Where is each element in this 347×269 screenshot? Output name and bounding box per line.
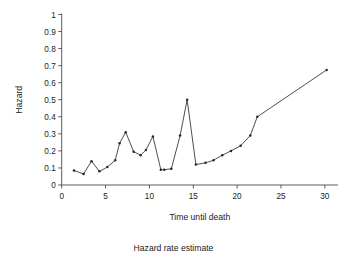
data-point-marker <box>325 69 328 72</box>
y-tick-label: 0 <box>51 181 56 190</box>
data-point-marker <box>73 169 76 172</box>
y-tick-label: 0.6 <box>44 79 56 88</box>
y-tick-label: 0.5 <box>44 96 56 105</box>
y-tick-label: 1 <box>51 11 56 20</box>
data-point-marker <box>98 170 101 173</box>
hazard-data-line <box>74 70 327 174</box>
y-tick-label: 0.9 <box>44 28 56 37</box>
data-point-marker <box>204 162 207 165</box>
data-point-marker <box>249 134 252 137</box>
hazard-rate-chart: 00.10.20.30.40.50.60.70.80.9105101520253… <box>0 0 347 269</box>
data-point-marker <box>239 145 242 148</box>
data-point-marker <box>124 131 127 134</box>
y-tick-label: 0.7 <box>44 62 56 71</box>
y-tick-label: 0.2 <box>44 147 56 156</box>
data-point-marker <box>186 99 189 102</box>
hazard-rate-figure: 00.10.20.30.40.50.60.70.80.9105101520253… <box>0 0 347 269</box>
y-tick-label: 0.1 <box>44 164 56 173</box>
data-point-marker <box>106 166 109 169</box>
data-point-marker <box>139 154 142 157</box>
x-tick-label: 10 <box>145 192 155 201</box>
x-tick-label: 5 <box>103 192 108 201</box>
data-point-marker <box>170 168 173 171</box>
figure-caption: Hazard rate estimate <box>0 243 347 253</box>
data-point-marker <box>132 151 135 154</box>
y-tick-label: 0.4 <box>44 113 56 122</box>
data-point-marker <box>118 142 121 145</box>
data-point-marker <box>152 135 155 138</box>
y-tick-label: 0.8 <box>44 45 56 54</box>
data-point-marker <box>256 116 259 119</box>
data-point-marker <box>90 160 93 163</box>
data-point-marker <box>82 173 85 176</box>
data-point-marker <box>114 159 117 162</box>
data-point-marker <box>163 168 166 171</box>
x-tick-label: 30 <box>320 192 330 201</box>
data-point-marker <box>145 149 148 152</box>
data-point-marker <box>195 163 198 166</box>
data-point-marker <box>179 134 182 137</box>
data-point-marker <box>221 154 224 157</box>
x-axis-title: Time until death <box>169 212 230 222</box>
x-tick-label: 0 <box>59 192 64 201</box>
x-tick-label: 15 <box>189 192 199 201</box>
x-tick-label: 20 <box>233 192 243 201</box>
data-point-marker <box>212 159 215 162</box>
data-point-marker <box>230 150 233 153</box>
y-axis-title: Hazard <box>14 86 24 114</box>
data-point-marker <box>160 168 163 171</box>
x-tick-label: 25 <box>276 192 286 201</box>
y-tick-label: 0.3 <box>44 130 56 139</box>
